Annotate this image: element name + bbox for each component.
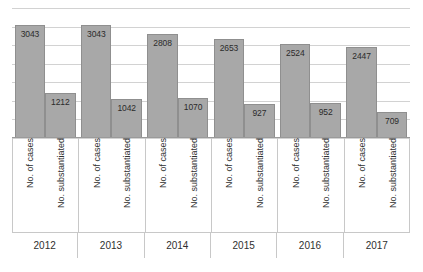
bar-value-label: 952 [311, 107, 339, 117]
category-label-band: No. of casesNo. substantiatedNo. of case… [12, 138, 410, 232]
year-label: 2013 [100, 240, 122, 251]
category-label-cell: No. of cases [215, 138, 245, 232]
category-label: No. of cases [357, 138, 368, 190]
category-label-cell: No. of cases [148, 138, 178, 232]
year-label: 2017 [366, 240, 388, 251]
category-group: No. of casesNo. substantiated [278, 138, 344, 232]
bar: 927 [244, 104, 274, 138]
category-label: No. substantiated [255, 138, 266, 210]
year-label: 2012 [34, 240, 56, 251]
bar-group: 2447709 [344, 8, 410, 138]
bar-value-label: 709 [378, 116, 406, 126]
year-label-band: 201220132014201520162017 [12, 232, 410, 258]
category-label-cell: No. substantiated [46, 138, 76, 232]
bar: 952 [310, 103, 340, 138]
category-label-cell: No. substantiated [112, 138, 142, 232]
category-group: No. of casesNo. substantiated [212, 138, 278, 232]
bar-value-label: 2653 [215, 43, 243, 53]
category-label: No. substantiated [388, 138, 399, 210]
category-label-cell: No. of cases [16, 138, 46, 232]
year-cell: 2017 [344, 233, 410, 258]
category-group: No. of casesNo. substantiated [146, 138, 212, 232]
category-label: No. substantiated [189, 138, 200, 210]
bar: 1212 [45, 93, 75, 138]
category-label-cell: No. of cases [281, 138, 311, 232]
category-label-cell: No. of cases [82, 138, 112, 232]
bar-chart: 3043121230431042280810702653927252495224… [0, 0, 423, 272]
category-label: No. substantiated [122, 138, 133, 210]
category-label-cell: No. substantiated [179, 138, 209, 232]
bar-value-label: 927 [245, 108, 273, 118]
year-cell: 2013 [78, 233, 144, 258]
year-cell: 2014 [145, 233, 211, 258]
plot-area: 3043121230431042280810702653927252495224… [12, 8, 410, 138]
year-label: 2014 [166, 240, 188, 251]
category-label: No. substantiated [56, 138, 67, 210]
bar: 2447 [346, 47, 376, 138]
bar-value-label: 1042 [112, 103, 140, 113]
bar-value-label: 2447 [347, 51, 375, 61]
year-label: 2016 [299, 240, 321, 251]
bar: 2808 [147, 34, 177, 138]
bar: 2653 [214, 39, 244, 138]
bar: 1070 [178, 98, 208, 138]
category-label: No. substantiated [321, 138, 332, 210]
category-group: No. of casesNo. substantiated [13, 138, 79, 232]
category-label: No. of cases [291, 138, 302, 190]
bar-group: 28081070 [145, 8, 211, 138]
bar-group: 2524952 [277, 8, 343, 138]
year-cell: 2016 [277, 233, 343, 258]
bar-value-label: 2808 [148, 38, 176, 48]
bar-group: 2653927 [211, 8, 277, 138]
category-label: No. of cases [158, 138, 169, 190]
category-label-cell: No. of cases [347, 138, 377, 232]
bar-value-label: 3043 [82, 29, 110, 39]
bar-value-label: 3043 [16, 29, 44, 39]
category-label: No. of cases [25, 138, 36, 190]
category-label-cell: No. substantiated [378, 138, 408, 232]
bar-group: 30431042 [78, 8, 144, 138]
bar: 709 [377, 112, 407, 138]
year-cell: 2012 [12, 233, 78, 258]
year-label: 2015 [233, 240, 255, 251]
bar-value-label: 2524 [281, 48, 309, 58]
year-cell: 2015 [211, 233, 277, 258]
category-group: No. of casesNo. substantiated [79, 138, 145, 232]
bar: 2524 [280, 44, 310, 138]
bar: 3043 [81, 25, 111, 138]
bar: 3043 [15, 25, 45, 138]
bar-group: 30431212 [12, 8, 78, 138]
bar: 1042 [111, 99, 141, 138]
category-label: No. of cases [224, 138, 235, 190]
category-label-cell: No. substantiated [311, 138, 341, 232]
bar-value-label: 1070 [179, 102, 207, 112]
bar-value-label: 1212 [46, 97, 74, 107]
category-label-cell: No. substantiated [245, 138, 275, 232]
category-group: No. of casesNo. substantiated [345, 138, 411, 232]
bars-layer: 3043121230431042280810702653927252495224… [12, 8, 410, 138]
category-label: No. of cases [92, 138, 103, 190]
